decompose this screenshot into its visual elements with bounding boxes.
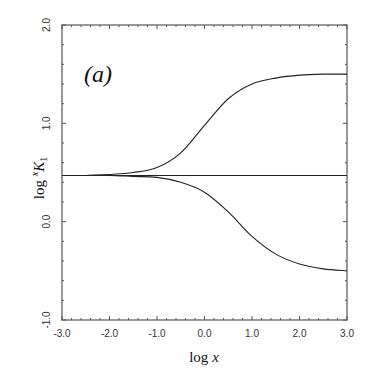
y-axis-label-prefix: log <box>31 176 47 199</box>
x-tick-label: -2.0 <box>101 328 119 339</box>
y-axis-label-sub: 1 <box>38 157 49 162</box>
y-tick-label: 0.0 <box>41 214 52 228</box>
data-series <box>62 74 347 271</box>
x-tick-label: -3.0 <box>53 328 71 339</box>
y-axis-label: log xK1 <box>29 157 49 199</box>
x-tick-label: 1.0 <box>245 328 259 339</box>
y-tick-label: -1.0 <box>41 311 52 329</box>
y-tick-label: 2.0 <box>41 18 52 32</box>
x-axis-label-var: x <box>211 349 219 365</box>
x-tick-label: 0.0 <box>198 328 212 339</box>
x-tick-label: -1.0 <box>148 328 166 339</box>
x-axis-label-log: log <box>189 349 212 365</box>
series-upper-line <box>62 74 347 175</box>
x-tick-label: 2.0 <box>293 328 307 339</box>
x-axis-label: log x <box>189 349 219 365</box>
y-tick-label: 1.0 <box>41 116 52 130</box>
series-lower-line <box>62 175 347 270</box>
chart: -3.0-2.0-1.00.01.02.03.0 -1.00.01.02.0 (… <box>0 0 370 391</box>
x-tick-label: 3.0 <box>340 328 354 339</box>
panel-label: (a) <box>84 61 112 87</box>
